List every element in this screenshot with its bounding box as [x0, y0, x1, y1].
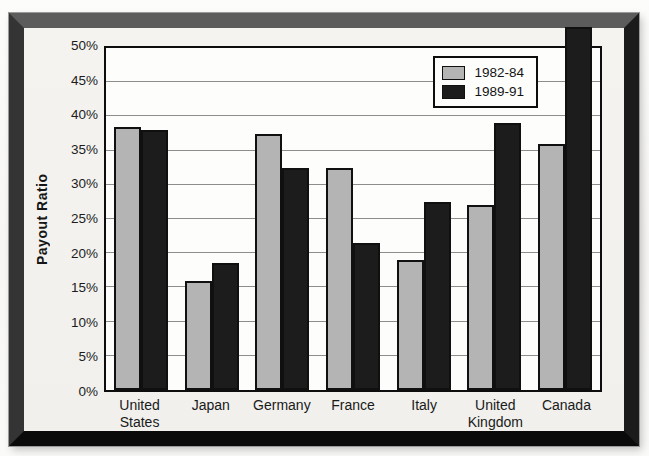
x-label-italy: Italy	[389, 397, 460, 431]
y-tick-label-10: 10%	[48, 314, 98, 332]
bar-1982-84-germany	[255, 134, 282, 391]
bar-1982-84-france	[326, 168, 353, 390]
bar-group-canada	[529, 48, 600, 390]
bar-1982-84-united-states	[114, 127, 141, 390]
plot-area: 1982-841989-91	[104, 46, 602, 392]
beveled-picture-frame: Payout Ratio 0%5%10%15%20%25%30%35%40%45…	[9, 13, 639, 446]
bar-1989-91-france	[353, 243, 380, 390]
x-label-france: France	[317, 397, 388, 431]
bar-1989-91-united-states	[141, 130, 168, 390]
y-tick-label-35: 35%	[48, 141, 98, 159]
bar-1982-84-japan	[185, 281, 212, 390]
y-tick-label-40: 40%	[48, 106, 98, 124]
x-label-united-states: United States	[104, 397, 175, 431]
y-tick-label-50: 50%	[48, 37, 98, 55]
bar-group-germany	[247, 48, 318, 390]
bar-1989-91-canada	[565, 27, 592, 390]
x-label-japan: Japan	[175, 397, 246, 431]
bar-group-japan	[177, 48, 248, 390]
y-tick-label-25: 25%	[48, 210, 98, 228]
legend-label-1982-84: 1982-84	[474, 65, 524, 80]
scanned-page: Payout Ratio 0%5%10%15%20%25%30%35%40%45…	[0, 0, 649, 456]
bar-1982-84-canada	[538, 144, 565, 390]
x-label-canada: Canada	[531, 397, 602, 431]
y-axis-tick-labels: 0%5%10%15%20%25%30%35%40%45%50%	[48, 46, 98, 392]
legend-swatch-1989-91	[442, 85, 465, 99]
bar-1989-91-japan	[212, 263, 239, 390]
legend-row-1989-91: 1989-91	[442, 82, 524, 101]
x-label-germany: Germany	[246, 397, 317, 431]
bar-1982-84-italy	[397, 260, 424, 390]
y-tick-label-15: 15%	[48, 279, 98, 297]
bar-group-united-states	[106, 48, 177, 390]
x-axis-category-labels: United StatesJapanGermanyFranceItalyUnit…	[104, 397, 602, 431]
x-label-united-kingdom: United Kingdom	[460, 397, 531, 431]
y-tick-label-45: 45%	[48, 72, 98, 90]
legend-row-1982-84: 1982-84	[442, 63, 524, 82]
payout-ratio-bar-chart: Payout Ratio 0%5%10%15%20%25%30%35%40%45…	[24, 28, 624, 431]
y-tick-label-30: 30%	[48, 175, 98, 193]
bar-1989-91-germany	[282, 168, 309, 390]
bar-1982-84-united-kingdom	[467, 205, 494, 390]
legend: 1982-841989-91	[433, 56, 538, 108]
bar-1989-91-italy	[424, 202, 451, 390]
y-tick-label-0: 0%	[48, 383, 98, 401]
bar-1989-91-united-kingdom	[494, 123, 521, 390]
legend-label-1989-91: 1989-91	[474, 84, 524, 99]
bar-group-france	[318, 48, 389, 390]
y-tick-label-20: 20%	[48, 245, 98, 263]
y-tick-label-5: 5%	[48, 348, 98, 366]
legend-swatch-1982-84	[442, 66, 465, 80]
